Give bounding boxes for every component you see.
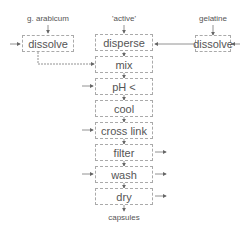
output-label-capsules: capsules <box>108 213 140 222</box>
step-dry: dry <box>95 188 153 205</box>
step-filter: filter <box>95 144 153 161</box>
step-cross-link: cross link <box>95 122 153 139</box>
input-label-gelatine: gelatine <box>199 14 227 23</box>
step-cool: cool <box>95 100 153 117</box>
step-wash: wash <box>95 166 153 183</box>
input-label-active: 'active' <box>112 14 136 23</box>
step-dissolve-left: dissolve <box>22 35 74 52</box>
input-label-g-arabicum: g. arabicum <box>27 14 69 23</box>
step-disperse: disperse <box>95 34 153 51</box>
step-dissolve-right: dissolve <box>195 35 231 52</box>
step-mix: mix <box>95 56 153 73</box>
step-ph: pH < <box>95 78 153 95</box>
